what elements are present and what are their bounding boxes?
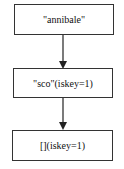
arrowhead-icon [59, 122, 67, 130]
edge-n2-n3 [59, 97, 67, 130]
node-label: "sco"(iskey=1) [33, 78, 93, 89]
node-label: "annibale" [43, 14, 85, 25]
node-annibale[interactable]: "annibale" [14, 4, 114, 35]
node-label: [](iskey=1) [40, 140, 85, 151]
edge-n1-n2 [59, 34, 67, 69]
node-empty-list[interactable]: [](iskey=1) [12, 130, 113, 161]
node-sco[interactable]: "sco"(iskey=1) [13, 68, 113, 98]
